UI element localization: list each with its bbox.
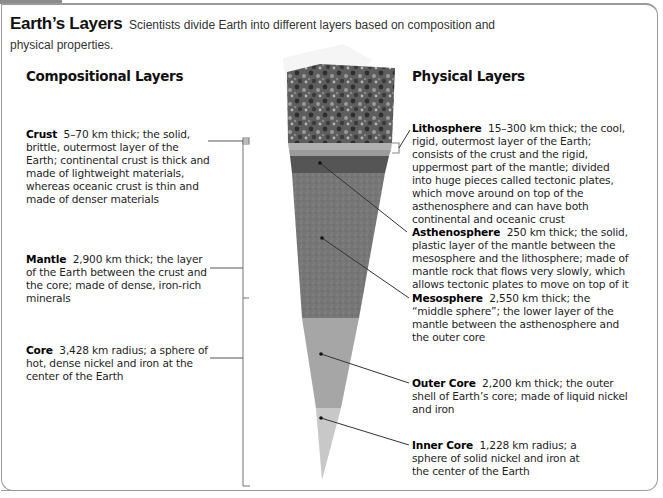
lithosphere-bracket [392,143,399,153]
surface-terrain [287,64,395,143]
outer-core-label: Outer Core [412,377,476,389]
lithosphere-description: Lithosphere 15–300 km thick; the cool, r… [412,122,630,226]
compositional-layers-heading: Compositional Layers [26,68,183,84]
compositional-bracket [243,138,250,486]
asthenosphere-band [290,156,389,173]
inner-core-label: Inner Core [412,439,473,451]
mesosphere-band [292,173,385,318]
compositional-leader-lines [208,141,243,358]
mesosphere-label: Mesosphere [412,292,483,304]
core-description: Core 3,428 km radius; a sphere of hot, d… [26,344,212,383]
mantle-description: Mantle 2,900 km thick; the layer of the … [26,253,211,305]
mantle-label: Mantle [26,253,66,265]
inner-core-description: Inner Core 1,228 km radius; a sphere of … [412,439,592,478]
asthenosphere-description: Asthenosphere 250 km thick; the solid, p… [412,226,630,291]
crust-description: Crust 5–70 km thick; the solid, brittle,… [26,128,211,206]
outer-core-description: Outer Core 2,200 km thick; the outer she… [412,377,634,416]
lithosphere-label: Lithosphere [412,122,482,134]
asthenosphere-label: Asthenosphere [412,226,500,238]
core-detail: 3,428 km radius; a sphere of hot, dense … [26,344,208,382]
crust-label: Crust [26,128,57,140]
core-label: Core [26,344,53,356]
lithosphere-band [289,150,391,156]
outer-core-band [302,318,359,408]
crust-band [288,143,392,150]
lithosphere-detail: 15–300 km thick; the cool, rigid, outerm… [412,122,625,225]
physical-layers-heading: Physical Layers [412,68,525,84]
mesosphere-description: Mesosphere 2,550 km thick; the “middle s… [412,292,630,344]
